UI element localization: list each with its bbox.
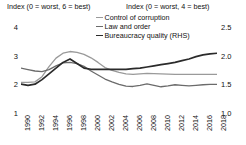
x-tick-label: 1998 <box>80 115 88 131</box>
y-tick-label-left: 2 <box>14 81 18 89</box>
y-tick-label-right: 2.5 <box>221 24 231 32</box>
series-lines <box>21 28 217 114</box>
y-tick-label-left: 4 <box>14 24 18 32</box>
y-tick-label-left: 1 <box>14 110 18 118</box>
x-axis-ticks: 1990199219941996199820002002200420062008… <box>21 115 217 145</box>
legend-line-icon <box>96 17 103 18</box>
x-tick-label: 2002 <box>108 115 116 131</box>
right-axis-caption: Index (0 = worst, 4 = best) <box>126 2 210 11</box>
legend-line-icon <box>96 26 103 27</box>
chart-container: Index (0 = worst, 6 = best) Index (0 = w… <box>0 0 246 145</box>
x-tick-label: 2016 <box>206 115 214 131</box>
x-tick-label: 1994 <box>52 115 60 131</box>
left-axis-caption: Index (0 = worst, 6 = best) <box>7 2 91 11</box>
x-tick-label: 2008 <box>150 115 158 131</box>
plot-area <box>21 28 217 114</box>
x-tick-label: 2018 <box>220 115 228 131</box>
x-tick-label: 2012 <box>178 115 186 131</box>
x-tick-label: 1996 <box>66 115 74 131</box>
y-tick-label-right: 1.5 <box>221 81 231 89</box>
x-tick-label: 2000 <box>94 115 102 131</box>
legend-label: Control of corruption <box>105 13 170 22</box>
x-tick-label: 1990 <box>24 115 32 131</box>
x-tick-label: 2006 <box>136 115 144 131</box>
legend-item: Control of corruption <box>96 13 190 22</box>
y-tick-label-left: 3 <box>14 53 18 61</box>
x-tick-label: 2014 <box>192 115 200 131</box>
x-tick-label: 2004 <box>122 115 130 131</box>
series-line <box>21 52 217 83</box>
x-tick-label: 2010 <box>164 115 172 131</box>
y-tick-label-right: 2.0 <box>221 53 231 61</box>
x-tick-label: 1992 <box>38 115 46 131</box>
